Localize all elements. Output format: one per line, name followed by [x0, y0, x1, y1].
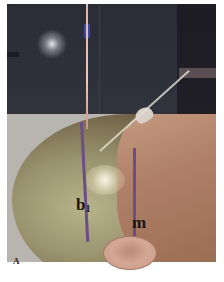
wall-bracket: [7, 52, 19, 57]
vertical-probe-rod: [86, 4, 88, 129]
label-m: m: [132, 214, 146, 231]
background-shadow: [177, 4, 216, 119]
wall-light-reflection: [37, 29, 67, 59]
label-b1: b1: [76, 196, 90, 214]
label-b1-subscript: 1: [85, 203, 90, 214]
clinical-photo: [7, 4, 216, 262]
panel-label: A: [13, 256, 20, 266]
light-glare: [85, 165, 125, 195]
wall-seam: [99, 4, 100, 124]
patient-ear: [103, 236, 157, 270]
